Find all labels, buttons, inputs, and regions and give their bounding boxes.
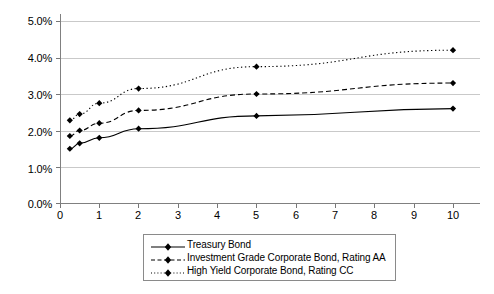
x-tick-mark — [374, 204, 375, 208]
y-tick-label: 2.0% — [0, 127, 52, 138]
x-tick-label: 4 — [204, 210, 230, 221]
y-tick-label: 3.0% — [0, 90, 52, 101]
x-tick-label: 8 — [361, 210, 387, 221]
x-tick-mark — [256, 204, 257, 208]
x-axis-line — [60, 203, 480, 204]
x-tick-label: 2 — [125, 210, 151, 221]
gridline — [60, 131, 480, 132]
x-tick-label: 1 — [86, 210, 112, 221]
x-tick-label: 6 — [283, 210, 309, 221]
y-tick-label: 4.0% — [0, 53, 52, 64]
legend-swatch-dotted — [149, 265, 187, 277]
x-tick-label: 0 — [47, 210, 73, 221]
chart-legend: Treasury Bond Investment Grade Corporate… — [143, 234, 396, 281]
y-tick-label: 1.0% — [0, 164, 52, 175]
x-tick-mark — [138, 204, 139, 208]
gridline — [60, 58, 480, 59]
legend-label: High Yield Corporate Bond, Rating CC — [187, 265, 354, 277]
y-tick-label: 5.0% — [0, 16, 52, 27]
legend-item-high-yield-bond: High Yield Corporate Bond, Rating CC — [149, 264, 390, 277]
x-tick-mark — [99, 204, 100, 208]
x-tick-mark — [178, 204, 179, 208]
x-tick-mark — [453, 204, 454, 208]
y-axis-line — [60, 14, 61, 204]
legend-item-investment-grade-bond: Investment Grade Corporate Bond, Rating … — [149, 251, 390, 264]
legend-swatch-solid — [149, 239, 187, 251]
gridline — [60, 167, 480, 168]
x-tick-label: 5 — [243, 210, 269, 221]
legend-label: Investment Grade Corporate Bond, Rating … — [187, 252, 386, 264]
x-tick-label: 7 — [322, 210, 348, 221]
gridline — [60, 94, 480, 95]
x-tick-mark — [296, 204, 297, 208]
y-tick-label: 0.0% — [0, 199, 52, 210]
legend-swatch-dashed — [149, 252, 187, 264]
plot-area — [60, 14, 480, 204]
x-tick-mark — [335, 204, 336, 208]
x-tick-mark — [217, 204, 218, 208]
x-tick-label: 3 — [165, 210, 191, 221]
x-tick-mark — [60, 204, 61, 208]
x-tick-label: 10 — [440, 210, 466, 221]
gridline — [60, 21, 480, 22]
x-tick-mark — [414, 204, 415, 208]
chart-figure: 5.0% 4.0% 3.0% 2.0% 1.0% 0.0% 0 1 — [0, 0, 494, 294]
legend-item-treasury-bond: Treasury Bond — [149, 238, 390, 251]
legend-label: Treasury Bond — [187, 239, 251, 251]
x-tick-label: 9 — [401, 210, 427, 221]
